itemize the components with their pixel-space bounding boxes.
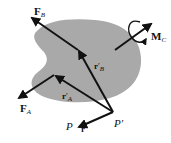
label-position-b: r′B: [94, 62, 104, 73]
label-position-a: r′A: [62, 92, 72, 103]
diagram-canvas: [0, 0, 171, 143]
label-couple-c: MC: [151, 31, 166, 44]
label-point-p-prime: P′: [114, 118, 123, 129]
label-force-b: FB: [34, 6, 45, 19]
label-vector-r: r: [81, 125, 85, 134]
label-point-p: P: [66, 121, 73, 132]
label-force-a: FA: [20, 103, 31, 116]
rigid-body: [32, 19, 141, 102]
